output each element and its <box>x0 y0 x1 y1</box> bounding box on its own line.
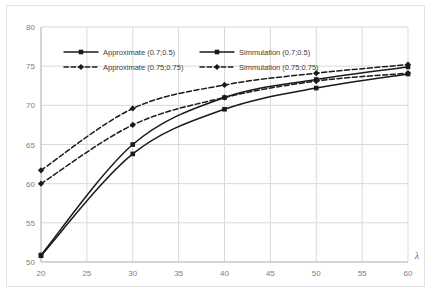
x-axis-tick-label: 20 <box>37 269 46 278</box>
legend-label: Simmulation (0.7;0.5) <box>239 48 311 57</box>
x-axis-tick-label: 35 <box>174 269 183 278</box>
x-axis-tick-label: 60 <box>404 269 413 278</box>
x-axis-tick-label: 25 <box>82 269 91 278</box>
y-axis-tick-label: 65 <box>26 141 35 150</box>
legend-label: Simmulation (0.75;0.75) <box>239 63 319 72</box>
y-axis-tick-label: 70 <box>26 101 35 110</box>
y-axis-tick-label: 60 <box>26 180 35 189</box>
x-axis-tick-label: 40 <box>220 269 229 278</box>
x-axis-tick-label: 30 <box>128 269 137 278</box>
legend-label: Approximate (0.75;0.75) <box>103 63 184 72</box>
legend-sample-marker <box>215 50 220 55</box>
x-axis-title: λ <box>414 250 420 261</box>
y-axis-tick-label: 75 <box>26 62 35 71</box>
data-point-marker <box>130 142 135 147</box>
line-chart-canvas: 50556065707580202530354045505560λApproxi… <box>0 0 432 294</box>
chart-figure: 50556065707580202530354045505560λApproxi… <box>0 0 432 294</box>
y-axis-tick-label: 55 <box>26 219 35 228</box>
legend-label: Approximate (0.7;0.5) <box>103 48 176 57</box>
legend-sample-marker <box>79 50 84 55</box>
y-axis-tick-label: 50 <box>26 258 35 267</box>
data-point-marker <box>39 253 44 258</box>
y-axis-tick-label: 80 <box>26 23 35 32</box>
x-axis-tick-label: 45 <box>266 269 275 278</box>
data-point-marker <box>222 107 227 112</box>
data-point-marker <box>314 86 319 91</box>
x-axis-tick-label: 55 <box>358 269 367 278</box>
x-axis-tick-label: 50 <box>312 269 321 278</box>
data-point-marker <box>130 152 135 157</box>
